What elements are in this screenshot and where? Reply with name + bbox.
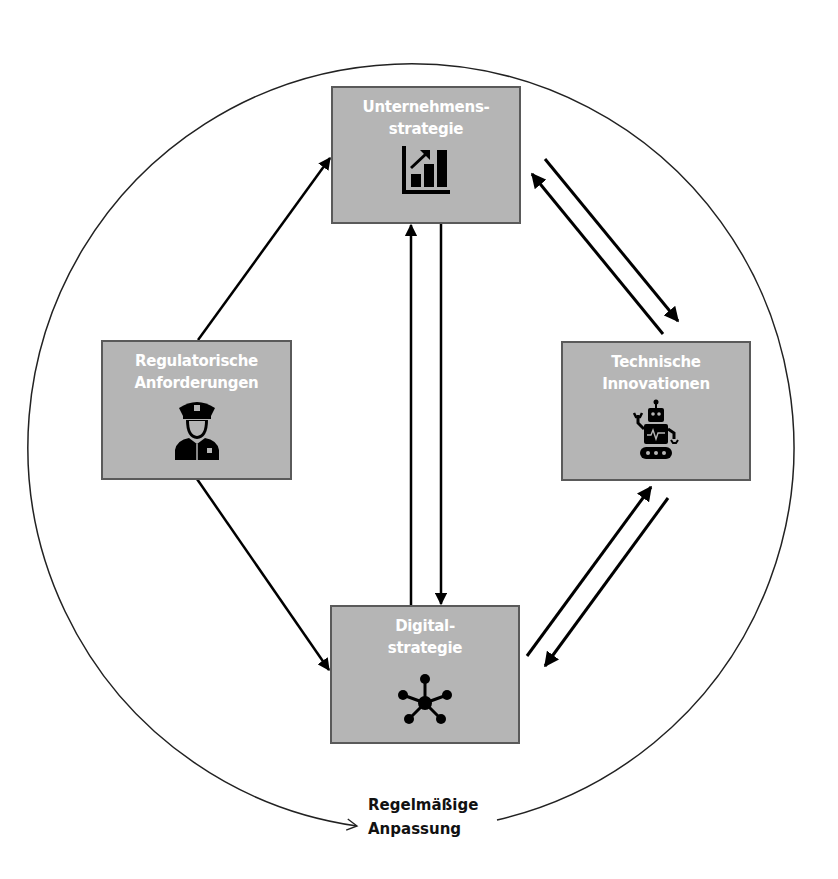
cycle-label: Regelmäßige Anpassung <box>368 793 488 841</box>
network-hub-icon <box>397 673 453 727</box>
node-unternehmensstrategie: Unternehmens- strategie <box>331 86 521 224</box>
node-label: Digital- strategie <box>388 615 462 659</box>
police-officer-icon <box>171 398 223 460</box>
node-technische-innovationen: Technische Innovationen <box>561 341 751 481</box>
node-label: Unternehmens- strategie <box>363 96 490 140</box>
arrow-technical-to-corporate <box>532 174 663 334</box>
arrow-digital-to-technical <box>527 487 651 656</box>
node-regulatorische-anforderungen: Regulatorische Anforderungen <box>101 340 292 480</box>
arrow-corporate-to-technical <box>545 159 678 321</box>
bar-chart-growth-icon <box>400 144 452 196</box>
robot-icon <box>632 399 680 461</box>
arrow-regulatory-to-corporate <box>198 158 330 340</box>
arrow-technical-to-digital <box>545 498 668 666</box>
arrow-regulatory-to-digital <box>197 479 329 670</box>
node-digitalstrategie: Digital- strategie <box>330 605 520 744</box>
node-label: Regulatorische Anforderungen <box>135 350 259 394</box>
node-label: Technische Innovationen <box>602 351 710 395</box>
